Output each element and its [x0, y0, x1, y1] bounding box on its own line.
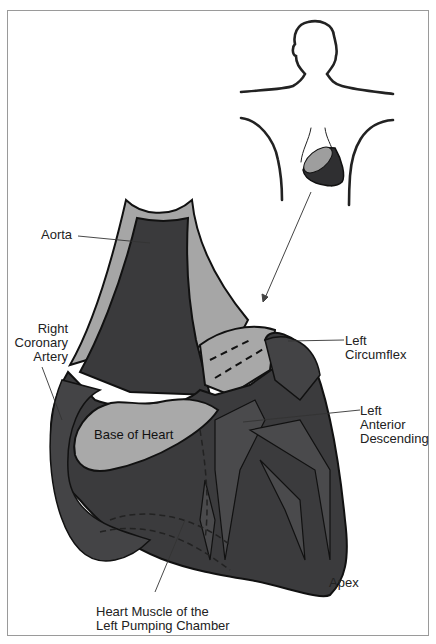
label-aorta: Aorta: [41, 228, 72, 242]
label-right-coronary-artery: Right Coronary Artery: [4, 322, 68, 364]
label-left-circumflex: Left Circumflex: [345, 334, 406, 362]
label-left-anterior-descending: Left Anterior Descending: [360, 404, 429, 446]
heart-illustration: [50, 200, 347, 596]
inset-heart-icon: [299, 142, 343, 186]
label-apex: Apex: [329, 576, 359, 590]
pointer-arrow-icon: [262, 192, 311, 302]
label-base-of-heart: Base of Heart: [94, 428, 174, 442]
label-heart-muscle: Heart Muscle of the Left Pumping Chamber: [96, 605, 230, 633]
